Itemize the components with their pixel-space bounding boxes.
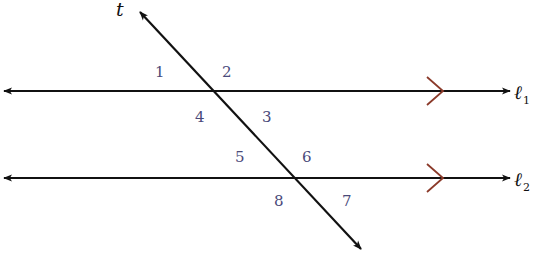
line-label-l1: ℓ 1 (514, 81, 530, 107)
angle-label-8: 8 (274, 192, 284, 210)
line-l1 (4, 77, 510, 105)
angle-label-4: 4 (195, 108, 205, 126)
svg-text:ℓ: ℓ (514, 168, 522, 190)
angle-label-7: 7 (342, 192, 352, 210)
angle-label-6: 6 (302, 148, 312, 166)
svg-text:ℓ: ℓ (514, 81, 522, 103)
angle-label-3: 3 (262, 108, 272, 126)
svg-text:1: 1 (523, 94, 530, 107)
angle-label-1: 1 (155, 63, 165, 81)
line-label-l2: ℓ 2 (514, 168, 530, 194)
angle-label-2: 2 (222, 63, 232, 81)
svg-text:2: 2 (523, 181, 530, 194)
diagram-canvas: t ℓ 1 ℓ 2 1 2 3 4 5 6 7 8 (0, 0, 535, 269)
line-l2 (4, 164, 510, 192)
transversal-t (140, 12, 361, 249)
angle-label-5: 5 (235, 148, 245, 166)
transversal-label: t (116, 0, 124, 20)
